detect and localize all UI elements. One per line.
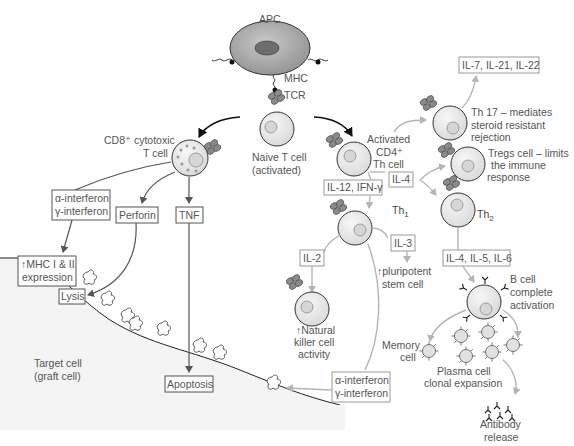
stem-cell-label-2: stem cell: [382, 278, 423, 290]
il4-label: IL-4: [392, 173, 410, 185]
target-cell-label-1: Target cell: [34, 357, 82, 369]
cd8-label-2: T cell: [143, 147, 168, 159]
apc-cell: [212, 21, 328, 106]
th17-label-2: steroid resistant: [471, 119, 545, 131]
nk-label-2: killer cell: [294, 336, 334, 348]
cd4-label-2: CD4⁺: [376, 146, 403, 158]
b-cell-label-3: activation: [510, 299, 555, 311]
natural-killer-cell: [285, 273, 329, 326]
memory-cell-icon: [420, 342, 439, 361]
arrow-cd8-to-perforin: [142, 172, 175, 203]
antibody-label-1: Antibody: [480, 418, 522, 430]
target-cell-label-2: (graft cell): [34, 370, 81, 382]
arrow-interferon-to-mhc: [63, 220, 72, 252]
arrow-naive-to-cd8: [199, 117, 240, 137]
tregs-label-3: response: [487, 171, 530, 183]
th2-cell: [441, 174, 475, 227]
perforin-label: Perforin: [119, 209, 156, 221]
b-cell-label-1: B cell: [510, 273, 536, 285]
th1-label: Th1: [392, 204, 409, 219]
b-cell: [459, 277, 508, 322]
arrow-interferon-to-target: [287, 388, 332, 390]
arrow-bcell-to-plasma: [503, 310, 518, 337]
th17-cytokine-label: IL-7, IL-21, IL-22: [462, 59, 540, 71]
immune-response-diagram: APC MHC TCR Naive T cell (activated) CD8…: [0, 0, 574, 446]
apc-right-antigen-dot: [316, 60, 321, 65]
arrow-plasma-to-antibody: [503, 360, 516, 394]
plasma-cell-icon: [457, 347, 476, 366]
il3-label: IL-3: [394, 237, 412, 249]
il456-label: IL-4, IL-5, IL-6: [446, 252, 512, 264]
stem-cell-label-1: ↑pluripotent: [377, 265, 431, 277]
arrow-cd4-to-th17: [394, 120, 426, 132]
apc-left-antigen-dot: [230, 60, 235, 65]
il12-ifn-label: IL-12, IFN-γ: [327, 181, 383, 193]
lysis-label: Lysis: [61, 290, 85, 302]
cd8-interferon-line1: α-interferon: [55, 192, 109, 204]
tnf-label: TNF: [179, 209, 199, 221]
cd8-cytotoxic-t-cell: [172, 138, 222, 176]
th1-interferon-line1: α-interferon: [335, 374, 389, 386]
th2-label: Th2: [477, 208, 494, 223]
arrow-il4-to-th2: [420, 180, 436, 195]
arrow-naive-to-cd4: [314, 117, 352, 136]
cd8-interferon-line2: γ-interferon: [55, 205, 108, 217]
cd8-to-interferon-line: [75, 162, 171, 190]
naive-t-cell-label-2: (activated): [252, 164, 301, 176]
th17-label-3: rejection: [471, 131, 511, 143]
b-cell-label-2: complete: [510, 286, 553, 298]
cd4-label-3: Th cell: [373, 158, 404, 170]
cd8-label-1: CD8⁺ cytotoxic: [104, 134, 175, 146]
naive-t-cell-label-1: Naive T cell: [252, 151, 306, 163]
apoptosis-label: Apoptosis: [167, 378, 213, 390]
th17-cell: [419, 94, 467, 140]
arrow-il4-to-tregs: [420, 166, 445, 180]
plasma-cell-icon: [479, 323, 498, 342]
arrow-perforin-to-lysis: [88, 223, 136, 295]
mhc-expression-line2: expression: [22, 271, 73, 283]
arrow-il456-to-bcell: [463, 266, 474, 282]
nk-label-3: activity: [298, 348, 331, 360]
mhc-molecule: [273, 75, 275, 89]
mhc-label: MHC: [284, 72, 308, 84]
plasma-cell-label-2: clonal expansion: [424, 377, 502, 389]
memory-cell-label-2: cell: [400, 351, 416, 363]
apc-label: APC: [259, 13, 281, 25]
memory-cell-label-1: Memory: [382, 339, 421, 351]
th1-to-il3-line: [372, 228, 388, 238]
plasma-cell-label-1: Plasma cell: [437, 365, 491, 377]
th1-to-il2-line: [324, 235, 340, 252]
antibody-label-2: release: [484, 431, 519, 443]
arrow-th17-to-cytokines: [462, 76, 476, 108]
plasma-cell-icon: [483, 343, 502, 362]
tregs-cell: [437, 141, 485, 181]
plasma-cell-icon: [504, 336, 523, 355]
nk-label-1: ↑Natural: [296, 324, 335, 336]
mhc-expression-line1: ↑MHC I & II: [21, 258, 75, 270]
th17-label-1: Th 17 – mediates: [471, 106, 552, 118]
th1-to-interferon-line: [365, 244, 379, 370]
naive-t-cell: [260, 112, 294, 146]
cd4-th-cell: [325, 131, 371, 176]
tregs-label-1: Tregs cell – limits: [488, 147, 569, 159]
arrow-il12-to-th1: [369, 196, 370, 208]
plasma-cell-icon: [452, 327, 471, 346]
tcr-label: TCR: [284, 89, 306, 101]
il2-label: IL-2: [303, 252, 321, 264]
tregs-label-2: the immune: [491, 159, 546, 171]
cd4-label-1: Activated: [367, 133, 410, 145]
th1-interferon-line2: γ-interferon: [335, 387, 388, 399]
